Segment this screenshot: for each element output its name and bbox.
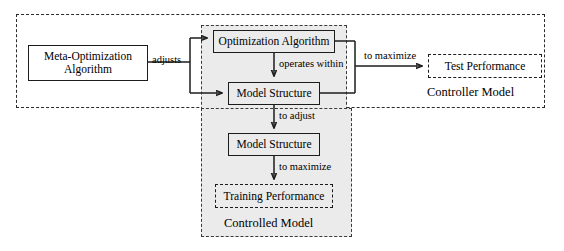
- node-training-performance-label: Training Performance: [221, 190, 328, 202]
- node-model-structure-upper[interactable]: Model Structure: [228, 82, 320, 105]
- edge-label-operates-within: operates within: [279, 58, 343, 69]
- diagram-canvas: Meta-Optimization Algorithm Optimization…: [0, 0, 564, 251]
- edge-label-to-maximize-training: to maximize: [279, 161, 331, 172]
- node-model-structure-lower-label: Model Structure: [233, 138, 314, 151]
- caption-controlled-model: Controlled Model: [224, 216, 313, 231]
- node-meta-optimization-line2: Algorithm: [64, 63, 112, 75]
- node-meta-optimization-line1: Meta-Optimization: [44, 50, 132, 62]
- node-meta-optimization-label: Meta-Optimization Algorithm: [41, 50, 135, 76]
- edge-label-adjusts: adjusts: [152, 54, 181, 65]
- caption-controller-model: Controller Model: [427, 85, 514, 100]
- node-meta-optimization-algorithm[interactable]: Meta-Optimization Algorithm: [28, 45, 148, 81]
- node-optimization-algorithm[interactable]: Optimization Algorithm: [213, 30, 335, 53]
- edge-label-to-maximize-test: to maximize: [364, 50, 416, 61]
- node-model-structure-lower[interactable]: Model Structure: [228, 133, 320, 156]
- node-training-performance[interactable]: Training Performance: [215, 184, 333, 208]
- node-test-performance[interactable]: Test Performance: [428, 54, 542, 78]
- node-model-structure-upper-label: Model Structure: [233, 87, 314, 100]
- node-test-performance-label: Test Performance: [442, 60, 529, 72]
- edge-label-to-adjust: to adjust: [279, 110, 315, 121]
- node-optimization-algorithm-label: Optimization Algorithm: [216, 35, 333, 48]
